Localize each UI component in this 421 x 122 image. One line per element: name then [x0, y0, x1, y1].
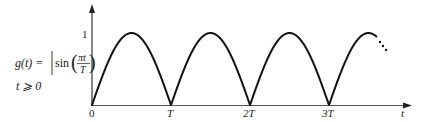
- x-tick-3T: 3T: [321, 107, 335, 119]
- x-axis-label: t: [401, 107, 405, 119]
- paren-right: ): [89, 51, 96, 74]
- origin-label: 0: [89, 107, 95, 119]
- g-of-t-label: g(t) =: [15, 56, 43, 70]
- x-tick-T: T: [167, 107, 174, 119]
- continuation-dots: [379, 41, 387, 51]
- function-formula: g(t) = sin ( πt T ): [15, 51, 96, 75]
- x-axis-arrow-icon: [403, 103, 412, 109]
- sin-label: sin: [55, 56, 69, 70]
- svg-text:g(t) =: g(t) =: [15, 56, 43, 70]
- condition-label: t ⩾ 0: [16, 79, 41, 93]
- plot-canvas: 0 T 2T 3T t 1 g(t) = sin ( πt T ) t ⩾ 0: [0, 0, 421, 122]
- paren-left: (: [71, 51, 78, 74]
- y-tick-1: 1: [82, 28, 88, 40]
- denominator-T: T: [80, 64, 87, 75]
- y-axis-arrow-icon: [89, 4, 95, 13]
- abs-sine-curve: [92, 33, 376, 105]
- numerator-pi-t: πt: [78, 52, 86, 63]
- x-tick-2T: 2T: [243, 107, 256, 119]
